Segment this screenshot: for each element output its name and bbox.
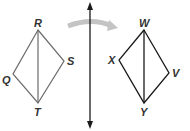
arrowhead-down-icon xyxy=(87,121,93,129)
arrowhead-up-icon xyxy=(87,2,93,10)
reflection-diagram: R S T Q W V Y X xyxy=(0,0,190,131)
preimage-kite: R S T Q xyxy=(2,17,75,118)
vertex-label-r: R xyxy=(34,17,42,29)
vertex-label-v: V xyxy=(172,67,181,79)
vertex-label-s: S xyxy=(67,55,75,67)
vertex-label-y: Y xyxy=(140,106,149,118)
vertex-label-x: X xyxy=(107,54,116,66)
vertex-label-w: W xyxy=(139,17,151,29)
transformation-arrow xyxy=(68,20,118,31)
vertex-label-t: T xyxy=(34,106,42,118)
image-kite: W V Y X xyxy=(107,17,181,118)
vertex-label-q: Q xyxy=(2,74,11,86)
